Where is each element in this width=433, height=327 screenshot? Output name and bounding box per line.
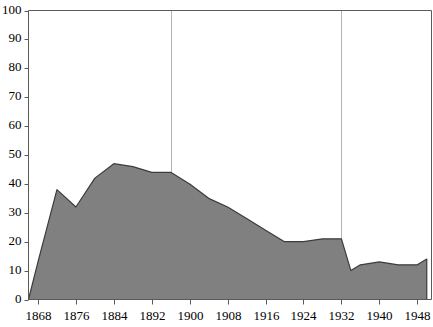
x-tick-label-1876: 1876: [64, 308, 91, 323]
x-tick-label-1900: 1900: [178, 308, 204, 323]
x-tick-label-1868: 1868: [26, 308, 52, 323]
x-tick-label-1940: 1940: [367, 308, 393, 323]
x-tick-label-1884: 1884: [102, 308, 129, 323]
y-tick-label-40: 40: [9, 175, 22, 190]
x-tick-label-1948: 1948: [405, 308, 431, 323]
chart-container: 0102030405060708090100 18681876188418921…: [0, 0, 433, 327]
y-tick-label-10: 10: [9, 262, 22, 277]
x-tick-label-1908: 1908: [216, 308, 242, 323]
y-tick-label-60: 60: [9, 117, 22, 132]
x-tick-label-1916: 1916: [254, 308, 281, 323]
x-tick-label-1924: 1924: [291, 308, 318, 323]
y-tick-label-20: 20: [9, 233, 22, 248]
y-tick-label-100: 100: [2, 2, 22, 17]
y-tick-label-30: 30: [9, 204, 22, 219]
y-tick-label-50: 50: [9, 146, 22, 161]
area-chart: 0102030405060708090100 18681876188418921…: [0, 0, 433, 327]
x-tick-label-1892: 1892: [140, 308, 166, 323]
y-tick-label-80: 80: [9, 59, 22, 74]
x-tick-label-1932: 1932: [329, 308, 355, 323]
y-tick-label-90: 90: [9, 30, 22, 45]
y-tick-label-0: 0: [15, 291, 22, 306]
y-tick-label-70: 70: [9, 88, 22, 103]
